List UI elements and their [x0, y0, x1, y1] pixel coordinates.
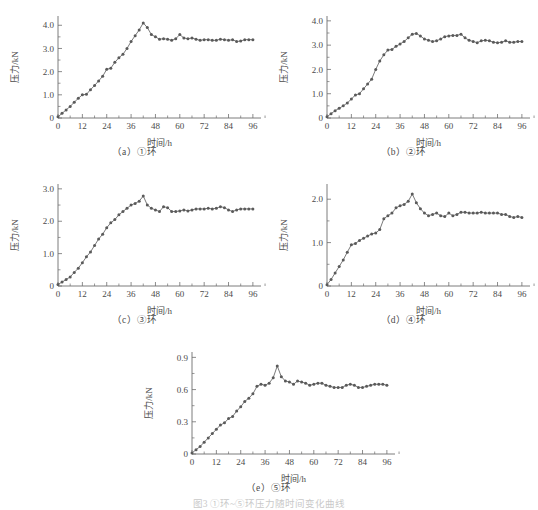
chart-plot-b: 0122436486072849601.02.03.04.0时间/h压力/kN — [269, 2, 538, 152]
data-point — [468, 39, 471, 42]
data-point — [341, 386, 344, 389]
data-point — [326, 115, 329, 118]
data-point — [435, 212, 438, 215]
data-point — [357, 386, 360, 389]
data-point — [121, 210, 124, 213]
data-point — [195, 38, 198, 41]
data-point — [255, 385, 258, 388]
y-tick-label: 3.0 — [43, 44, 55, 54]
y-axis-title: 压力/kN — [9, 219, 20, 251]
x-tick-label: 36 — [396, 121, 406, 131]
data-point — [369, 384, 372, 387]
chart-axes — [327, 184, 530, 286]
data-point — [324, 384, 327, 387]
series-markers — [57, 21, 255, 118]
data-point — [381, 383, 384, 386]
y-axis-title: 压力/kN — [278, 51, 289, 83]
x-axis-ticks: 01224364860728496 — [325, 114, 534, 131]
data-point — [472, 40, 475, 43]
data-point — [419, 34, 422, 37]
data-point — [251, 207, 254, 210]
data-point — [186, 37, 189, 40]
data-point — [166, 206, 169, 209]
data-point — [504, 213, 507, 216]
data-point — [403, 40, 406, 43]
y-tick-label: 4.0 — [43, 20, 55, 30]
data-point — [390, 48, 393, 51]
data-point — [296, 379, 299, 382]
data-point — [447, 212, 450, 215]
data-point — [146, 204, 149, 207]
x-axis-ticks: 01224364860728496 — [56, 114, 265, 131]
data-point — [468, 212, 471, 215]
x-tick-label: 96 — [517, 121, 527, 131]
x-tick-label: 48 — [151, 121, 161, 131]
x-tick-label: 48 — [151, 289, 161, 299]
data-point — [142, 21, 145, 24]
y-axis-ticks: 01.02.0 — [312, 194, 331, 291]
chart-svg: 0122436486072849600.30.60.9时间/h压力/kN — [134, 338, 403, 488]
chart-caption-e: （e）⑤环 — [134, 480, 403, 494]
y-tick-label: 1.0 — [312, 89, 324, 99]
data-point — [349, 383, 352, 386]
data-point — [496, 41, 499, 44]
chart-svg: 0122436486072849601.02.0时间/h压力/kN — [269, 170, 538, 320]
data-point — [435, 39, 438, 42]
x-tick-label: 12 — [78, 289, 87, 299]
y-axis-ticks: 00.30.60.9 — [177, 353, 196, 460]
x-tick-label: 24 — [371, 289, 381, 299]
data-point — [215, 39, 218, 42]
series-line — [192, 366, 387, 453]
data-point — [65, 108, 68, 111]
data-point — [362, 87, 365, 90]
data-point — [207, 436, 210, 439]
data-point — [199, 207, 202, 210]
data-point — [346, 101, 349, 104]
x-tick-label: 0 — [325, 289, 330, 299]
x-tick-label: 60 — [444, 121, 454, 131]
data-point — [117, 213, 120, 216]
chart-caption-d: （d）④环 — [269, 312, 538, 326]
data-point — [272, 376, 275, 379]
x-tick-label: 72 — [469, 289, 478, 299]
data-point — [403, 203, 406, 206]
data-point — [411, 192, 414, 195]
data-point — [231, 38, 234, 41]
series-markers — [57, 194, 255, 285]
data-point — [431, 40, 434, 43]
y-tick-label: 0 — [319, 281, 324, 291]
data-point — [395, 206, 398, 209]
data-point — [69, 105, 72, 108]
data-point — [150, 33, 153, 36]
data-point — [439, 214, 442, 217]
chart-panel-d: 0122436486072849601.02.0时间/h压力/kN （d）④环 — [269, 170, 538, 330]
data-point — [488, 39, 491, 42]
data-point — [492, 212, 495, 215]
data-point — [334, 109, 337, 112]
x-tick-label: 0 — [56, 289, 61, 299]
x-tick-label: 24 — [371, 121, 381, 131]
data-point — [338, 107, 341, 110]
data-point — [57, 115, 60, 118]
data-point — [73, 271, 76, 274]
series-markers — [191, 364, 389, 454]
data-point — [138, 28, 141, 31]
y-axis-ticks: 01.02.03.04.0 — [312, 16, 331, 123]
y-axis-title: 压力/kN — [278, 219, 289, 251]
data-point — [93, 84, 96, 87]
data-point — [459, 33, 462, 36]
data-point — [113, 218, 116, 221]
y-axis-title: 压力/kN — [9, 51, 20, 83]
x-tick-label: 96 — [248, 121, 258, 131]
data-point — [407, 200, 410, 203]
data-point — [109, 221, 112, 224]
data-point — [320, 382, 323, 385]
data-point — [354, 93, 357, 96]
data-point — [500, 213, 503, 216]
data-point — [350, 243, 353, 246]
chart-panel-a: 0122436486072849601.02.03.04.0时间/h压力/kN … — [0, 2, 269, 162]
data-point — [57, 283, 60, 286]
x-tick-label: 48 — [420, 289, 430, 299]
data-point — [354, 242, 357, 245]
data-point — [395, 45, 398, 48]
